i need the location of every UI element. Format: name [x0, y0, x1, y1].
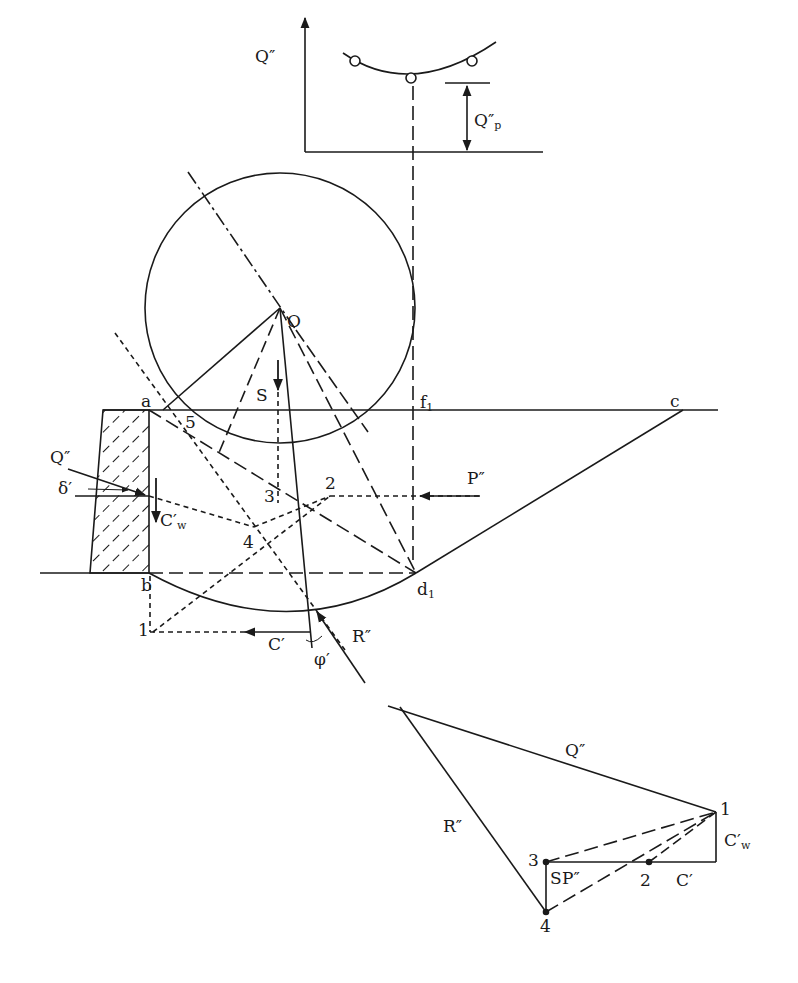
label-4: 4: [243, 534, 254, 551]
label-cw: C′w: [160, 512, 186, 531]
label-r: R″: [352, 628, 371, 645]
node-4: [544, 910, 549, 915]
poly-label-c: C′: [676, 872, 693, 889]
center-line: [188, 172, 296, 330]
poly-label-2: 2: [640, 872, 651, 889]
q-axis-label: Q″: [255, 48, 275, 65]
label-s: S: [256, 387, 268, 404]
label-3: 3: [264, 488, 275, 505]
label-c-prime: C′: [268, 636, 285, 653]
label-phi: φ′: [314, 651, 330, 668]
label-q: Q″: [50, 449, 70, 466]
label-c: c: [670, 393, 680, 410]
center-line-ext: [296, 330, 368, 432]
poly-label-p: P″: [562, 870, 580, 887]
line-a-d1: [149, 410, 416, 573]
node-3: [544, 860, 549, 865]
label-d1: d1: [417, 581, 435, 600]
poly-label-q: Q″: [565, 742, 585, 759]
phi-arc: [306, 636, 322, 642]
dash-3-1: [546, 812, 716, 862]
slope-line: [416, 410, 683, 573]
label-f1: f1: [420, 394, 433, 413]
label-1: 1: [138, 622, 149, 639]
label-a: a: [141, 393, 151, 410]
r-arrow: [317, 612, 365, 683]
label-o: O: [287, 313, 301, 330]
poly-label-cw: C′w: [724, 832, 750, 851]
dash-2-1: [649, 812, 716, 862]
poly-label-1: 1: [720, 801, 731, 818]
label-2: 2: [325, 475, 336, 492]
poly-label-3: 3: [528, 852, 539, 869]
slip-arc: [149, 573, 416, 612]
diagram-canvas: Q″ Q″p O a b c d1 f1 S P″ Q″ δ′ C′w C′ R…: [0, 0, 798, 983]
curve-point-min: [406, 73, 416, 83]
label-delta: δ′: [58, 480, 72, 497]
line-o-5: [218, 308, 280, 455]
r-vector-line: [400, 707, 546, 912]
label-5: 5: [185, 414, 196, 431]
curve-point: [350, 56, 360, 66]
top-plot: [305, 18, 543, 560]
label-b: b: [141, 577, 152, 594]
node-2: [647, 860, 652, 865]
curve-point: [467, 56, 477, 66]
poly-label-s: S: [550, 870, 562, 887]
label-p: P″: [467, 470, 485, 487]
retaining-wall: [90, 410, 149, 573]
diagram-svg: [0, 0, 798, 983]
qp-label: Q″p: [474, 112, 501, 131]
poly-label-r: R″: [443, 818, 462, 835]
poly-label-4: 4: [540, 918, 551, 935]
